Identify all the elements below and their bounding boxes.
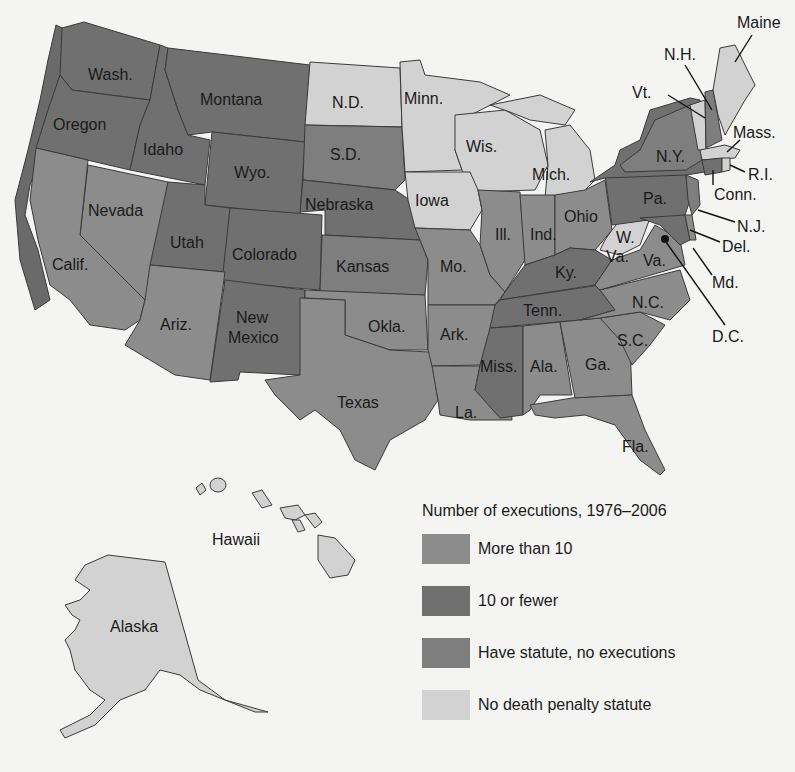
label-iowa: Iowa	[415, 192, 449, 209]
label-oregon: Oregon	[53, 116, 106, 133]
state-fla	[530, 395, 665, 475]
label-maine: Maine	[737, 14, 781, 31]
label-dc: D.C.	[712, 328, 744, 345]
label-ark: Ark.	[440, 326, 468, 343]
label-ny: N.Y.	[656, 148, 685, 165]
label-ala: Ala.	[530, 358, 558, 375]
legend-label: 10 or fewer	[478, 592, 558, 610]
legend-swatch	[422, 534, 470, 564]
label-okla: Okla.	[368, 318, 405, 335]
label-conn: Conn.	[714, 186, 757, 203]
label-ri: R.I.	[748, 166, 773, 183]
label-colorado: Colorado	[232, 246, 297, 263]
label-nc: N.C.	[632, 294, 664, 311]
label-calif: Calif.	[52, 256, 88, 273]
label-sd: S.D.	[330, 146, 361, 163]
label-newmexico-1: New	[236, 309, 268, 326]
label-ga: Ga.	[585, 356, 611, 373]
legend-swatch	[422, 690, 470, 720]
legend-item-10-or-fewer: 10 or fewer	[422, 586, 782, 616]
label-tenn: Tenn.	[523, 302, 562, 319]
label-ariz: Ariz.	[160, 316, 192, 333]
label-ohio: Ohio	[564, 208, 598, 225]
dc-marker	[661, 235, 669, 243]
label-mo: Mo.	[440, 258, 467, 275]
label-va: Va.	[643, 252, 666, 269]
label-wash: Wash.	[88, 66, 133, 83]
legend: Number of executions, 1976–2006 More tha…	[422, 502, 782, 742]
label-newmexico-2: Mexico	[228, 329, 279, 346]
state-ri	[722, 158, 730, 172]
label-ky: Ky.	[555, 264, 577, 281]
legend-label: No death penalty statute	[478, 696, 651, 714]
legend-item-more-than-10: More than 10	[422, 534, 782, 564]
label-nh: N.H.	[664, 46, 696, 63]
label-mich: Mich.	[532, 166, 570, 183]
label-nevada: Nevada	[88, 202, 143, 219]
label-nebraska: Nebraska	[305, 196, 374, 213]
label-minn: Minn.	[404, 90, 443, 107]
legend-title: Number of executions, 1976–2006	[422, 502, 782, 520]
label-pa: Pa.	[643, 190, 667, 207]
legend-label: Have statute, no executions	[478, 644, 675, 662]
state-maine	[713, 45, 755, 135]
legend-item-no-executions: Have statute, no executions	[422, 638, 782, 668]
label-md: Md.	[712, 274, 739, 291]
label-mass: Mass.	[733, 124, 776, 141]
label-hawaii: Hawaii	[212, 531, 260, 548]
state-nj	[686, 175, 700, 215]
legend-item-no-statute: No death penalty statute	[422, 690, 782, 720]
label-la: La.	[455, 404, 477, 421]
label-wva-2: Va.	[606, 248, 629, 265]
label-wis: Wis.	[466, 138, 497, 155]
label-nd: N.D.	[332, 94, 364, 111]
label-del: Del.	[722, 238, 750, 255]
label-sc: S.C.	[617, 332, 648, 349]
label-idaho: Idaho	[143, 141, 183, 158]
legend-label: More than 10	[478, 540, 572, 558]
label-alaska: Alaska	[110, 618, 158, 635]
label-ill: Ill.	[495, 226, 511, 243]
label-utah: Utah	[170, 234, 204, 251]
label-wyo: Wyo.	[234, 164, 270, 181]
state-wash	[60, 22, 160, 100]
label-nj: N.J.	[737, 218, 765, 235]
label-vt: Vt.	[632, 84, 652, 101]
label-texas: Texas	[337, 394, 379, 411]
label-wva-1: W.	[616, 229, 635, 246]
label-ind: Ind.	[530, 226, 557, 243]
state-conn	[702, 158, 722, 175]
label-fla: Fla.	[622, 438, 649, 455]
legend-swatch	[422, 586, 470, 616]
label-kansas: Kansas	[336, 258, 389, 275]
label-montana: Montana	[200, 91, 262, 108]
state-alaska	[60, 555, 268, 738]
state-hawaii	[196, 478, 355, 578]
legend-swatch	[422, 638, 470, 668]
label-miss: Miss.	[480, 358, 517, 375]
